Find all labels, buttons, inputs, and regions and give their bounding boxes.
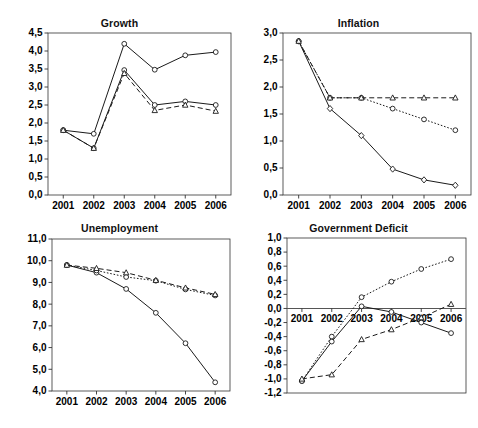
axes-group: 4,05,06,07,08,09,010,011,020012002200320… (27, 233, 230, 406)
y-axis-tick-label: 9,0 (33, 277, 47, 288)
series-line-series-2 (67, 265, 215, 295)
x-axis-tick-label: 2003 (115, 396, 138, 407)
series-line-series-3 (67, 265, 215, 294)
y-axis-tick-label: 0,4 (268, 275, 282, 286)
y-axis-tick-label: 0,6 (268, 261, 282, 272)
plot-area-growth: 0,00,51,01,52,02,53,03,54,04,52001200220… (0, 0, 239, 214)
x-axis-tick-label: 2002 (85, 396, 108, 407)
y-axis-tick-label: 0,5 (264, 162, 278, 173)
circle-marker (213, 50, 218, 55)
y-axis-tick-label: 3,0 (264, 27, 278, 38)
circle-marker (390, 106, 395, 111)
triangle-marker (448, 301, 453, 306)
circle-marker (359, 295, 364, 300)
y-axis-tick-label: 0,0 (29, 189, 43, 200)
y-axis-tick-label: 0,8 (268, 246, 282, 257)
x-axis-tick-label: 2006 (440, 313, 463, 324)
y-axis-tick-label: 10,0 (27, 255, 47, 266)
y-axis-tick-label: 0,0 (264, 189, 278, 200)
y-axis-tick-label: 4,0 (33, 385, 47, 396)
x-axis-tick-label: 2004 (382, 200, 405, 211)
panel-growth: Growth 0,00,51,01,52,02,53,03,54,04,5200… (0, 0, 239, 214)
circle-marker (419, 267, 424, 272)
circle-marker (124, 275, 129, 280)
panel-unemployment: Unemployment 4,05,06,07,08,09,010,011,02… (0, 214, 239, 428)
series-line-series-2 (299, 41, 456, 130)
plot-frame (52, 239, 230, 391)
y-axis-tick-label: -1,2 (264, 387, 282, 398)
x-axis-tick-label: 2003 (350, 313, 373, 324)
x-axis-tick-label: 2002 (319, 200, 342, 211)
y-axis-tick-label: 3,0 (29, 81, 43, 92)
plot-area-inflation: 0,00,51,01,52,02,53,02001200220032004200… (239, 0, 478, 214)
diamond-marker (421, 177, 426, 183)
circle-marker (389, 310, 394, 315)
triangle-marker (359, 337, 364, 342)
y-axis-tick-label: 11,0 (28, 233, 47, 244)
x-axis-tick-label: 2001 (288, 200, 311, 211)
y-axis-tick-label: 6,0 (33, 342, 47, 353)
y-axis-tick-label: 1,0 (29, 153, 43, 164)
axes-group: 0,00,51,01,52,02,53,03,54,04,52001200220… (29, 27, 231, 210)
y-axis-tick-label: 0,2 (268, 289, 282, 300)
y-axis-tick-label: 3,5 (29, 63, 43, 74)
y-axis-tick-label: 2,5 (29, 99, 43, 110)
circle-marker (389, 279, 394, 284)
circle-marker (213, 380, 218, 385)
y-axis-tick-label: 4,5 (29, 27, 43, 38)
plot-area-government-deficit: -1,2-1,0-0,8-0,6-0,4-0,20,00,20,40,60,81… (239, 214, 478, 428)
circle-marker (152, 67, 157, 72)
circle-marker (153, 310, 158, 315)
y-axis-tick-label: 1,5 (264, 108, 278, 119)
x-axis-tick-label: 2005 (174, 396, 197, 407)
y-axis-tick-label: 7,0 (33, 320, 47, 331)
x-axis-tick-label: 2003 (113, 200, 136, 211)
x-axis-tick-label: 2004 (145, 396, 168, 407)
diamond-marker (453, 182, 458, 188)
y-axis-tick-label: -1,0 (264, 373, 282, 384)
panel-government-deficit: Government Deficit -1,2-1,0-0,8-0,6-0,4-… (239, 214, 478, 428)
circle-marker (183, 341, 188, 346)
plot-frame (283, 33, 471, 195)
circle-marker (329, 339, 334, 344)
circle-marker (329, 334, 334, 339)
circle-marker (419, 320, 424, 325)
series-line-series-1 (63, 44, 216, 134)
x-axis-tick-label: 2001 (291, 313, 314, 324)
circle-marker (359, 304, 364, 309)
circle-marker (422, 117, 427, 122)
circle-marker (124, 287, 129, 292)
panel-inflation: Inflation 0,00,51,01,52,02,53,0200120022… (239, 0, 478, 214)
plot-area-unemployment: 4,05,06,07,08,09,010,011,020012002200320… (0, 214, 239, 428)
x-axis-tick-label: 2002 (83, 200, 106, 211)
y-axis-tick-label: 1,0 (268, 232, 282, 243)
multi-panel-chart-figure: Growth 0,00,51,01,52,02,53,03,54,04,5200… (0, 0, 478, 428)
y-axis-tick-label: 4,0 (29, 45, 43, 56)
series-line-series-1 (299, 41, 456, 185)
y-axis-tick-label: 2,0 (29, 117, 43, 128)
x-axis-tick-label: 2003 (350, 200, 373, 211)
x-axis-tick-label: 2002 (321, 313, 344, 324)
series-line-series-3 (299, 41, 456, 98)
y-axis-tick-label: 1,5 (29, 135, 43, 146)
x-axis-tick-label: 2004 (144, 200, 167, 211)
x-axis-tick-label: 2006 (444, 200, 467, 211)
circle-marker (91, 131, 96, 136)
triangle-marker (389, 327, 394, 332)
x-axis-tick-label: 2006 (204, 396, 227, 407)
y-axis-tick-label: -0,6 (264, 345, 282, 356)
y-axis-tick-label: 2,0 (264, 81, 278, 92)
series-line-series-1 (67, 265, 215, 382)
y-axis-tick-label: -0,2 (264, 317, 282, 328)
y-axis-tick-label: 1,0 (264, 135, 278, 146)
x-axis-tick-label: 2001 (52, 200, 75, 211)
x-axis-tick-label: 2005 (174, 200, 197, 211)
series-line-series-3 (63, 73, 216, 148)
circle-marker (449, 257, 454, 262)
y-axis-tick-label: 2,5 (264, 54, 278, 65)
circle-marker (183, 53, 188, 58)
x-axis-tick-label: 2006 (205, 200, 228, 211)
circle-marker (213, 103, 218, 108)
y-axis-tick-label: -0,8 (264, 359, 282, 370)
y-axis-tick-label: 5,0 (33, 364, 47, 375)
